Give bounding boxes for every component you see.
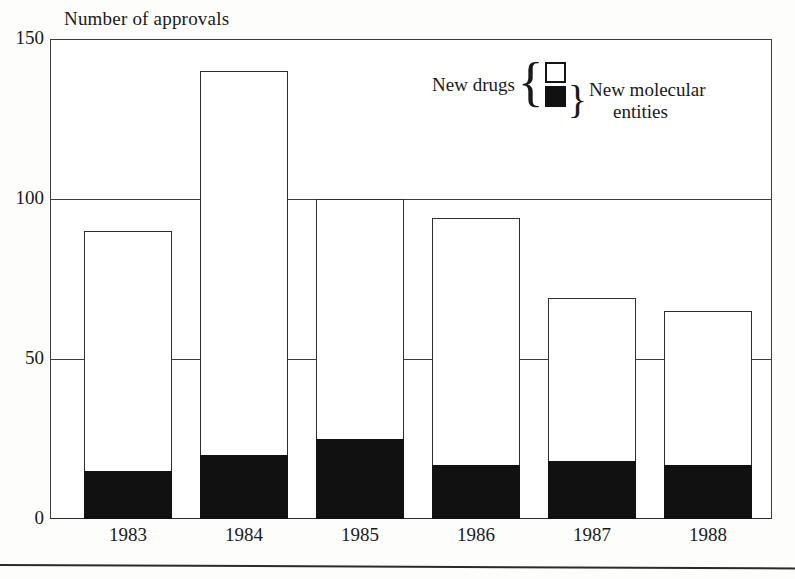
figure-stacked-bar-chart: Number of approvals 150 100 50 0 1983 19… (0, 0, 795, 579)
bar-nme-1988[interactable] (664, 465, 752, 519)
x-axis-tick-1988: 1988 (664, 524, 752, 546)
legend-label-new-drugs: New drugs (432, 60, 515, 96)
bar-total-1984[interactable] (200, 71, 288, 519)
chart-legend: New drugs { } New molecular entities (432, 60, 706, 123)
legend-swatches (545, 62, 566, 107)
x-axis-tick-1985: 1985 (316, 524, 404, 546)
open-square-swatch-icon (545, 62, 566, 83)
legend-open-brace-icon: { (518, 56, 544, 108)
x-axis-tick-1986: 1986 (432, 524, 520, 546)
bar-nme-1985[interactable] (316, 439, 404, 519)
bar-nme-1983[interactable] (84, 471, 172, 519)
bar-nme-1987[interactable] (548, 461, 636, 519)
legend-label-line2: entities (613, 101, 706, 123)
x-axis-tick-1987: 1987 (548, 524, 636, 546)
x-axis-tick-1983: 1983 (84, 524, 172, 546)
legend-label-line1: New molecular (589, 79, 706, 100)
bar-nme-1984[interactable] (200, 455, 288, 519)
bar-nme-1986[interactable] (432, 465, 520, 519)
legend-close-brace-icon: } (568, 80, 587, 120)
x-axis-tick-1984: 1984 (200, 524, 288, 546)
legend-label-new-molecular-entities: New molecular entities (589, 79, 706, 123)
filled-square-swatch-icon (545, 86, 566, 107)
